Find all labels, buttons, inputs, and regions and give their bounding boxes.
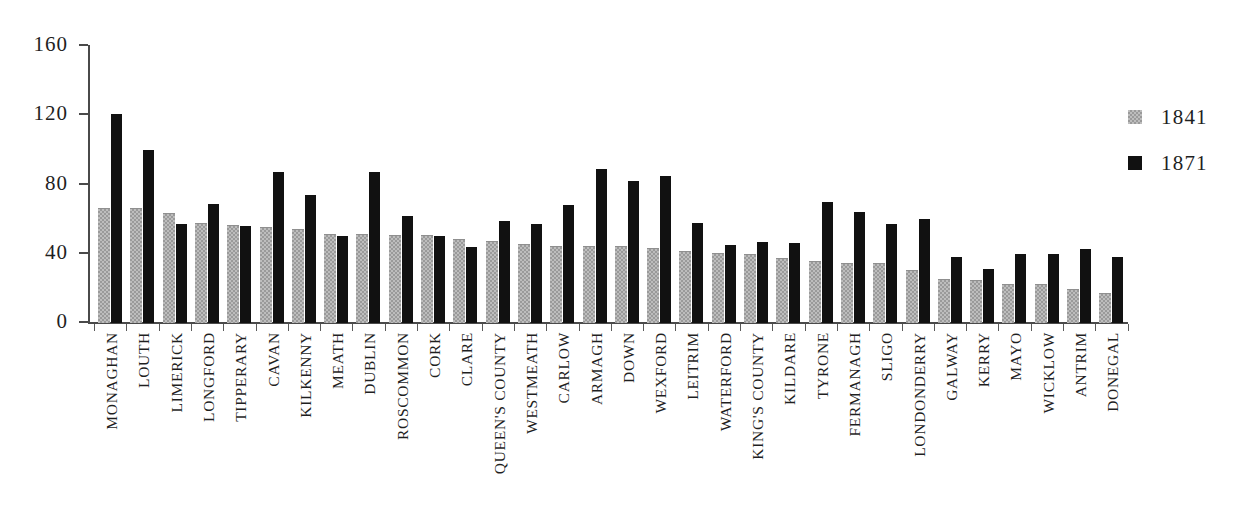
bar-1871 <box>402 216 413 323</box>
y-axis-tick-label: 0 <box>10 311 68 332</box>
x-axis-label: MAYO <box>1007 332 1025 381</box>
bar-group <box>260 45 286 323</box>
bar-1841 <box>615 246 627 323</box>
bar-1871 <box>692 223 703 323</box>
y-axis-tick-label: 40 <box>10 242 68 263</box>
bar-chart: 04080120160 MONAGHANLOUTHLIMERICKLONGFOR… <box>0 0 1244 528</box>
bar-1871 <box>531 224 542 323</box>
bar-1841 <box>938 279 950 323</box>
bar-group <box>227 45 253 323</box>
x-axis-tick <box>159 324 160 331</box>
bar-1871 <box>143 150 154 323</box>
x-axis-tick <box>837 324 838 331</box>
bar-group <box>906 45 932 323</box>
x-axis-label: KING'S COUNTY <box>749 332 767 460</box>
x-axis-tick <box>1063 324 1064 331</box>
x-axis-label: MONAGHAN <box>103 332 121 430</box>
bar-1841 <box>906 270 918 323</box>
y-axis-tick <box>79 44 88 46</box>
bar-group <box>389 45 415 323</box>
x-axis-tick <box>740 324 741 331</box>
x-axis-tick <box>643 324 644 331</box>
bar-group <box>356 45 382 323</box>
bar-group <box>873 45 899 323</box>
x-axis-label: CLARE <box>458 332 476 386</box>
bar-1841 <box>809 261 821 323</box>
x-axis-tick <box>385 324 386 331</box>
bar-1871 <box>983 269 994 323</box>
bar-1871 <box>111 114 122 323</box>
x-axis-tick <box>352 324 353 331</box>
x-axis-label: KERRY <box>975 332 993 387</box>
bar-1841 <box>486 241 498 323</box>
bar-1841 <box>260 227 272 323</box>
x-axis-label: TIPPERARY <box>232 332 250 422</box>
x-axis-tick <box>1031 324 1032 331</box>
plot-area <box>90 45 1125 323</box>
bar-1841 <box>1067 289 1079 323</box>
bar-1871 <box>208 204 219 323</box>
x-axis-tick <box>966 324 967 331</box>
bar-group <box>292 45 318 323</box>
x-axis-tick <box>579 324 580 331</box>
x-axis-tick <box>1128 324 1129 331</box>
bar-group <box>130 45 156 323</box>
x-axis-label: LOUTH <box>135 332 153 388</box>
y-axis-tick-label: 120 <box>10 103 68 124</box>
bar-1841 <box>518 244 530 323</box>
x-axis-tick <box>546 324 547 331</box>
x-axis-tick <box>772 324 773 331</box>
bar-1841 <box>744 254 756 323</box>
y-axis-tick-label: 80 <box>10 173 68 194</box>
x-axis-label: LIMERICK <box>168 332 186 413</box>
bar-1871 <box>1015 254 1026 323</box>
x-axis-label: CORK <box>426 332 444 378</box>
x-axis-tick <box>288 324 289 331</box>
x-axis-label: SLIGO <box>878 332 896 381</box>
bar-1871 <box>240 226 251 323</box>
x-axis-tick <box>191 324 192 331</box>
bar-1841 <box>130 208 142 323</box>
x-axis-label: ANTRIM <box>1072 332 1090 397</box>
bar-group <box>1067 45 1093 323</box>
bar-1841 <box>1035 284 1047 323</box>
x-axis-tick <box>675 324 676 331</box>
bar-1871 <box>176 224 187 323</box>
bar-1841 <box>550 246 562 323</box>
x-axis-tick <box>1095 324 1096 331</box>
bar-1841 <box>873 263 885 323</box>
bar-group <box>679 45 705 323</box>
x-axis-tick <box>934 324 935 331</box>
bar-1841 <box>453 239 465 323</box>
bar-group <box>518 45 544 323</box>
bar-1871 <box>854 212 865 323</box>
bar-1871 <box>1112 257 1123 323</box>
x-axis-label: LONDONDERRY <box>911 332 929 457</box>
bar-group <box>938 45 964 323</box>
x-axis-tick <box>223 324 224 331</box>
x-axis-tick <box>417 324 418 331</box>
x-axis-tick <box>449 324 450 331</box>
bar-1871 <box>499 221 510 323</box>
bar-1841 <box>292 229 304 323</box>
x-axis-tick <box>256 324 257 331</box>
x-axis-label: LEITRIM <box>684 332 702 400</box>
bar-1841 <box>970 280 982 323</box>
bar-1841 <box>421 235 433 323</box>
x-axis-tick <box>902 324 903 331</box>
legend-swatch-1871 <box>1128 156 1142 170</box>
y-axis-tick <box>79 252 88 254</box>
bar-1871 <box>369 172 380 323</box>
bar-1871 <box>628 181 639 323</box>
x-axis-label: WEXFORD <box>652 332 670 414</box>
bar-1841 <box>841 263 853 323</box>
bar-1871 <box>789 243 800 323</box>
bar-group <box>1099 45 1125 323</box>
bar-1841 <box>163 213 175 323</box>
bar-group <box>324 45 350 323</box>
x-axis-label: LONGFORD <box>200 332 218 422</box>
x-axis-tick <box>320 324 321 331</box>
bar-1871 <box>725 245 736 323</box>
bar-1871 <box>596 169 607 323</box>
bar-group <box>421 45 447 323</box>
